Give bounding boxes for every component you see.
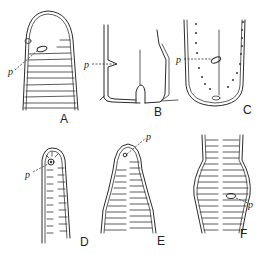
panel-f-label: F — [240, 228, 247, 240]
panel-c-pointer-label: p — [176, 55, 181, 65]
panel-a-label: A — [60, 113, 68, 125]
panel-c-label: C — [243, 104, 252, 116]
panel-b-drawing — [92, 25, 178, 103]
panel-a-pointer-label: p — [8, 67, 13, 77]
panel-f-pointer-label: p — [248, 200, 253, 210]
panel-f-drawing — [194, 135, 251, 233]
panel-e-pointer-label: p — [146, 132, 151, 142]
panel-d-pointer-label: p — [25, 170, 30, 180]
figure-canvas — [0, 0, 263, 254]
panel-b-label: B — [154, 106, 162, 118]
panel-b-pointer-label: p — [84, 60, 89, 70]
panel-e-label: E — [157, 235, 165, 247]
panel-e-drawing — [101, 138, 156, 233]
panel-d-drawing — [33, 148, 70, 243]
panel-a-drawing — [15, 11, 78, 110]
panel-d-label: D — [80, 236, 89, 248]
panel-c-drawing — [184, 20, 245, 106]
